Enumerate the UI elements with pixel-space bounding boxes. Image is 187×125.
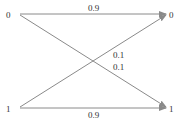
output-node-1: 1	[169, 104, 174, 114]
label-top-probability: 0.9	[88, 3, 100, 13]
label-cross-upper-probability: 0.1	[113, 50, 124, 60]
label-bottom-probability: 0.9	[88, 110, 100, 120]
input-node-1: 1	[6, 104, 11, 114]
input-node-0: 0	[6, 10, 11, 20]
output-node-0: 0	[169, 10, 174, 20]
diagram-svg: 0 1 0 1 0.9 0.1 0.1 0.9	[0, 0, 187, 125]
label-cross-lower-probability: 0.1	[113, 62, 124, 72]
bsc-diagram: 0 1 0 1 0.9 0.1 0.1 0.9	[0, 0, 187, 125]
